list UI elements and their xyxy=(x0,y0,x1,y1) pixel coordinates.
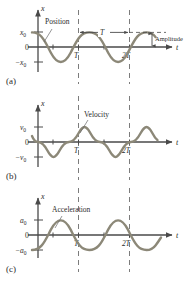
panel-a-y-axis-label: x xyxy=(40,4,45,13)
panel-c-ytick-label-zero: 0 xyxy=(25,231,29,240)
panel-c-y-axis-label: x xyxy=(40,192,45,201)
shm-figure: x t x0 0 −x0 T 2T Position T Amplitude (… xyxy=(0,0,191,290)
amplitude-label: Amplitude xyxy=(155,35,183,42)
panel-b-label: (b) xyxy=(6,171,17,181)
panel-a-label: (a) xyxy=(6,76,16,86)
acceleration-label: Acceleration xyxy=(52,205,91,214)
panel-c-label: (c) xyxy=(6,264,16,274)
panel-b-ytick-label-zero: 0 xyxy=(25,138,29,147)
panel-a-ytick-label-zero: 0 xyxy=(25,43,29,52)
position-label: Position xyxy=(45,17,70,26)
velocity-label: Velocity xyxy=(84,110,109,119)
panel-c-xtick-label-2T: 2T xyxy=(122,239,131,248)
panel-b-y-axis-label: x xyxy=(40,99,45,108)
